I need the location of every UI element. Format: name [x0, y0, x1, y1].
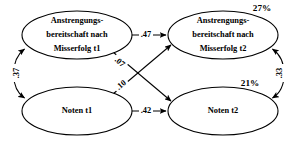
node-effort-t2[interactable]: Anstrengungs- bereitschaft nach Misserfo…: [168, 11, 278, 59]
node-effort-t1-line2: bereitschaft nach: [46, 30, 108, 39]
node-effort-t1-line3: Misserfolg t1: [54, 44, 101, 53]
path-grades-t1-to-grades-t2-label: .42: [141, 106, 151, 115]
path-diagram-canvas: .37 .33 .47 .42 .07: [0, 0, 296, 141]
path-grades-t1-to-grades-t2: .42: [132, 106, 166, 116]
node-effort-t2-line3: Misserfolg t2: [200, 44, 247, 53]
path-effort-t1-to-effort-t2: .47: [132, 30, 166, 40]
diagram-svg: .37 .33 .47 .42 .07: [0, 0, 296, 141]
node-grades-t1-line1: Noten t1: [62, 106, 92, 115]
node-effort-t2-line1: Anstrengungs-: [197, 16, 250, 25]
node-effort-t1[interactable]: Anstrengungs- bereitschaft nach Misserfo…: [22, 11, 132, 59]
variance-label-effort-t2: 27%: [253, 3, 271, 13]
correlation-arrow-t2: .33: [273, 49, 287, 98]
variance-label-grades-t2: 21%: [241, 78, 259, 88]
node-effort-t2-line2: bereitschaft nach: [192, 30, 254, 39]
correlation-t2-label: .33: [275, 68, 284, 78]
path-effort-t1-to-effort-t2-label: .47: [141, 30, 151, 39]
correlation-t1-label: .37: [12, 68, 21, 78]
node-grades-t2[interactable]: Noten t2: [168, 87, 278, 135]
node-grades-t1[interactable]: Noten t1: [22, 87, 132, 135]
node-effort-t1-line1: Anstrengungs-: [51, 16, 104, 25]
node-grades-t2-line1: Noten t2: [208, 106, 238, 115]
correlation-arrow-t1: .37: [12, 49, 25, 98]
